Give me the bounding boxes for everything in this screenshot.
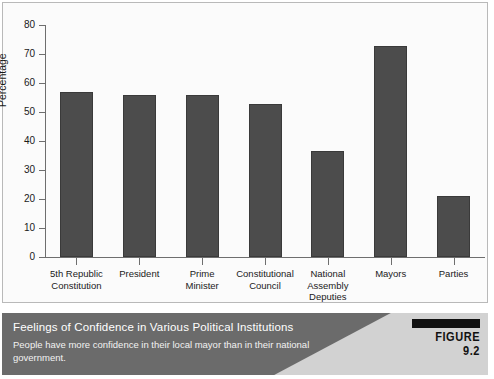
x-tick-label: 5th Republic Constitution (45, 268, 108, 291)
y-tick-label: 60 (3, 77, 35, 89)
figure-badge-bar (412, 319, 480, 328)
x-tick-mark (391, 257, 392, 265)
bar (437, 196, 470, 257)
x-tick-mark (265, 257, 266, 265)
caption-band: Feelings of Confidence in Various Politi… (2, 313, 488, 375)
bar (311, 151, 344, 257)
bar (249, 104, 282, 257)
x-tick-label: Parties (422, 268, 485, 280)
figure-container: Percentage 01020304050607080 5th Republi… (0, 0, 494, 379)
x-tick-label: National Assembly Deputies (296, 268, 359, 303)
x-tick-mark (139, 257, 140, 265)
figure-number-label: FIGURE 9.2 (418, 330, 480, 358)
y-tick-label: 20 (3, 193, 35, 205)
bar (123, 95, 156, 257)
bar (60, 92, 93, 257)
y-tick-label: 30 (3, 164, 35, 176)
bar (186, 95, 219, 257)
plot-area (45, 25, 485, 257)
x-tick-label: President (108, 268, 171, 280)
y-tick-label: 10 (3, 222, 35, 234)
caption-title: Feelings of Confidence in Various Politi… (13, 320, 343, 335)
x-tick-mark (76, 257, 77, 265)
x-tick-label: Prime Minister (171, 268, 234, 291)
y-tick-label: 0 (3, 251, 35, 263)
x-tick-mark (202, 257, 203, 265)
x-tick-label: Mayors (359, 268, 422, 280)
y-tick-label: 50 (3, 106, 35, 118)
x-tick-mark (328, 257, 329, 265)
caption-text-block: Feelings of Confidence in Various Politi… (13, 320, 343, 364)
y-tick-label: 70 (3, 48, 35, 60)
y-tick-label: 80 (3, 19, 35, 31)
chart-frame: Percentage 01020304050607080 5th Republi… (2, 2, 488, 303)
x-tick-mark (454, 257, 455, 265)
caption-subtitle: People have more confidence in their loc… (13, 338, 343, 364)
y-tick-label: 40 (3, 135, 35, 147)
bar (374, 46, 407, 257)
x-tick-label: Constitutional Council (234, 268, 297, 291)
figure-badge: FIGURE 9.2 (410, 319, 480, 358)
